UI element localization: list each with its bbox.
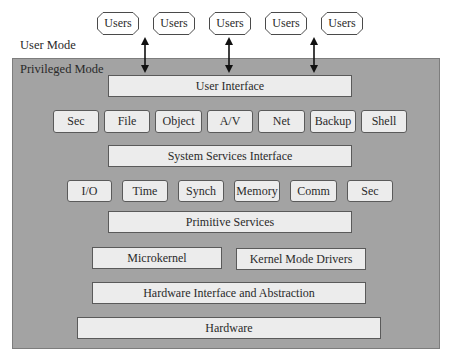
primitive-memory: Memory (234, 180, 280, 202)
hardware-interface-layer: Hardware Interface and Abstraction (92, 282, 366, 304)
service-file: File (104, 110, 150, 133)
service-av: A/V (207, 110, 253, 133)
service-object: Object (155, 110, 202, 133)
primitive-sec: Sec (347, 180, 393, 202)
users-node-4: Users (265, 12, 307, 35)
privileged-mode-region (12, 58, 440, 349)
users-label: Users (209, 12, 251, 35)
kernel-mode-drivers-layer: Kernel Mode Drivers (236, 248, 366, 270)
service-sec: Sec (53, 110, 99, 133)
users-label: Users (153, 12, 195, 35)
service-net: Net (258, 110, 305, 133)
microkernel-layer: Microkernel (92, 247, 222, 269)
user-interface-layer: User Interface (108, 75, 352, 97)
hardware-layer: Hardware (77, 317, 381, 339)
users-node-1: Users (97, 12, 139, 35)
primitive-services-layer: Primitive Services (108, 211, 352, 233)
primitive-synch: Synch (178, 180, 224, 202)
primitive-time: Time (122, 180, 168, 202)
users-node-2: Users (153, 12, 195, 35)
primitive-comm: Comm (290, 180, 337, 202)
service-shell: Shell (361, 110, 407, 133)
users-label: Users (321, 12, 363, 35)
privileged-mode-label: Privileged Mode (20, 62, 104, 77)
users-label: Users (97, 12, 139, 35)
users-label: Users (265, 12, 307, 35)
primitive-io: I/O (67, 180, 112, 202)
users-node-3: Users (209, 12, 251, 35)
users-node-5: Users (321, 12, 363, 35)
service-backup: Backup (310, 110, 356, 133)
user-mode-label: User Mode (20, 38, 76, 53)
system-services-interface-layer: System Services Interface (108, 145, 352, 167)
